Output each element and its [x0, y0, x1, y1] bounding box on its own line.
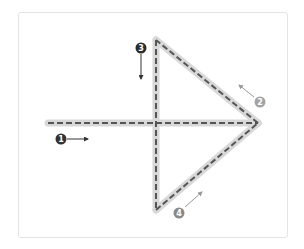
direction-arrow-icon-4: [185, 192, 202, 207]
step-number: 2: [257, 98, 263, 107]
stroke-bands: [48, 40, 258, 210]
direction-arrows: [67, 54, 254, 207]
step-badge-3: 3: [136, 43, 147, 54]
stroke-dash-2: [156, 40, 258, 123]
step-number: 3: [138, 44, 144, 53]
arrow-stroke-order-diagram: 1234: [0, 0, 304, 249]
step-badges: 1234: [56, 43, 266, 219]
step-badge-2: 2: [255, 97, 266, 108]
direction-arrow-icon-2: [239, 85, 254, 97]
step-badge-1: 1: [56, 134, 67, 145]
step-badge-4: 4: [174, 208, 185, 219]
step-number: 1: [58, 135, 64, 144]
stroke-dash-4: [156, 123, 258, 210]
step-number: 4: [176, 209, 182, 218]
